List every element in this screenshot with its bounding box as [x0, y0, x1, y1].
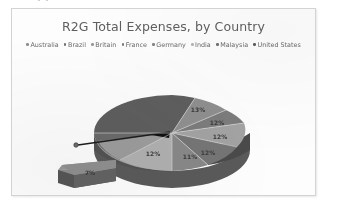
- legend-item-united-states[interactable]: United States: [253, 41, 300, 49]
- legend-swatch-brazil: [64, 43, 67, 46]
- legend-swatch-india: [191, 43, 194, 46]
- legend-label-australia: Australia: [30, 41, 58, 49]
- legend-item-britain[interactable]: Britain: [91, 41, 116, 49]
- legend-label-brazil: Brazil: [68, 41, 86, 49]
- legend-item-france[interactable]: France: [122, 41, 147, 49]
- slice-label-australia: 13%: [191, 106, 205, 113]
- legend-item-malaysia[interactable]: Malaysia: [216, 41, 248, 49]
- slice-label-brazil: 12%: [210, 119, 224, 126]
- legend-item-india[interactable]: India: [191, 41, 211, 49]
- slice-label-malaysia: 7%: [85, 169, 95, 176]
- slice-label-britain: 12%: [213, 133, 227, 140]
- legend-label-germany: Germany: [156, 41, 185, 49]
- legend-swatch-germany: [152, 43, 155, 46]
- legend-swatch-united-states: [253, 43, 256, 46]
- chart-container[interactable]: R2G Total Expenses, by Country Australia…: [11, 8, 316, 196]
- legend-label-malaysia: Malaysia: [220, 41, 248, 49]
- pie-chart-plot-area[interactable]: 7% 13% 12% 12% 12%: [12, 55, 315, 197]
- legend-label-india: India: [195, 41, 211, 49]
- legend-swatch-australia: [26, 43, 29, 46]
- legend-label-united-states: United States: [257, 41, 300, 49]
- legend-item-australia[interactable]: Australia: [26, 41, 58, 49]
- legend-swatch-malaysia: [216, 43, 219, 46]
- page-top-cutoff-text: p p: [0, 0, 338, 7]
- cutoff-text: p p: [38, 0, 51, 1]
- legend-swatch-britain: [91, 43, 94, 46]
- pie-chart-svg: 7% 13% 12% 12% 12%: [12, 55, 317, 197]
- chart-title: R2G Total Expenses, by Country: [12, 19, 315, 34]
- leader-endpoint-dot: [74, 143, 78, 147]
- slice-label-france: 12%: [201, 149, 215, 156]
- slice-label-germany: 11%: [183, 153, 197, 160]
- legend-swatch-france: [122, 43, 125, 46]
- legend-item-brazil[interactable]: Brazil: [64, 41, 86, 49]
- legend-label-france: France: [126, 41, 147, 49]
- slice-label-india: 12%: [146, 150, 160, 157]
- chart-legend: AustraliaBrazilBritainFranceGermanyIndia…: [12, 41, 315, 49]
- legend-item-germany[interactable]: Germany: [152, 41, 186, 49]
- legend-label-britain: Britain: [95, 41, 116, 49]
